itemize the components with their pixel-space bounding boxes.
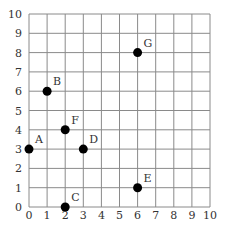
point-marker bbox=[79, 145, 88, 154]
x-tick-label: 4 bbox=[98, 209, 105, 222]
x-tick-label: 3 bbox=[80, 209, 87, 222]
y-tick-label: 1 bbox=[15, 182, 22, 195]
point-d: D bbox=[79, 133, 99, 154]
x-tick-label: 1 bbox=[44, 209, 51, 222]
x-axis-tick-labels: 012345678910 bbox=[26, 209, 218, 222]
data-points: ABCDEFG bbox=[25, 37, 153, 212]
x-tick-label: 8 bbox=[170, 209, 177, 222]
point-c: C bbox=[61, 191, 80, 212]
point-label: G bbox=[144, 37, 153, 50]
point-marker bbox=[25, 145, 34, 154]
point-marker bbox=[61, 203, 70, 212]
x-tick-label: 6 bbox=[134, 209, 141, 222]
y-tick-label: 2 bbox=[15, 162, 22, 175]
point-f: F bbox=[61, 114, 80, 135]
x-tick-label: 7 bbox=[152, 209, 159, 222]
point-a: A bbox=[25, 133, 45, 154]
y-tick-label: 6 bbox=[15, 85, 22, 98]
y-tick-label: 7 bbox=[15, 66, 22, 79]
y-tick-label: 0 bbox=[15, 201, 22, 214]
y-axis-tick-labels: 012345678910 bbox=[8, 8, 22, 214]
grid-lines bbox=[29, 14, 210, 207]
point-label: D bbox=[89, 133, 98, 146]
point-marker bbox=[43, 87, 52, 96]
point-g: G bbox=[133, 37, 152, 58]
x-tick-label: 10 bbox=[203, 209, 217, 222]
x-tick-label: 5 bbox=[116, 209, 123, 222]
x-tick-label: 0 bbox=[26, 209, 33, 222]
point-marker bbox=[133, 183, 142, 192]
coordinate-grid-chart: 012345678910 012345678910 ABCDEFG bbox=[0, 0, 230, 234]
x-tick-label: 9 bbox=[188, 209, 195, 222]
y-tick-label: 4 bbox=[15, 124, 22, 137]
point-e: E bbox=[133, 172, 152, 193]
point-b: B bbox=[43, 75, 62, 96]
point-label: E bbox=[144, 172, 152, 185]
point-label: A bbox=[34, 133, 44, 146]
y-tick-label: 8 bbox=[15, 47, 22, 60]
point-marker bbox=[61, 125, 70, 134]
y-tick-label: 9 bbox=[15, 27, 22, 40]
y-tick-label: 3 bbox=[15, 143, 22, 156]
point-marker bbox=[133, 48, 142, 57]
y-tick-label: 5 bbox=[15, 105, 22, 118]
point-label: F bbox=[71, 114, 79, 127]
point-label: B bbox=[53, 75, 61, 88]
y-tick-label: 10 bbox=[8, 8, 22, 21]
point-label: C bbox=[71, 191, 79, 204]
